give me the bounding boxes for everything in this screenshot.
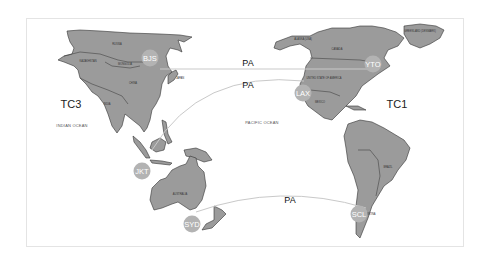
route-label-lax-jkt: PA — [242, 80, 253, 90]
sumatra-landmass — [133, 136, 150, 158]
country-label-mongolia: MONGOLIA — [118, 62, 132, 66]
region-label-tc1: TC1 — [387, 98, 408, 110]
country-label-china: CHINA — [129, 81, 137, 85]
city-code-syd: SYD — [184, 220, 200, 229]
country-label-usa: UNITED STATE OF AMERICA — [306, 76, 341, 80]
country-label-mexico: MEXICO — [315, 100, 325, 104]
city-marker-lax[interactable]: LAX — [295, 85, 312, 102]
country-label-india: INDIA — [104, 102, 111, 106]
new-zealand-landmass — [202, 206, 226, 230]
country-label-greenland: GREENLAND (DENMARK) — [404, 29, 436, 33]
ocean-label-pacific: PACIFIC OCEAN — [245, 120, 278, 125]
cuba-landmass — [346, 106, 366, 110]
world-map: PA PA PA TC3 TC1 INDIAN OCEAN PACIFIC OC… — [0, 0, 487, 263]
city-marker-scl[interactable]: SCL — [351, 206, 368, 223]
route-label-bjs-yto: PA — [242, 58, 253, 68]
city-code-scl: SCL — [352, 210, 367, 219]
greenland-landmass — [404, 24, 444, 48]
route-label-scl-syd: PA — [284, 195, 295, 205]
city-marker-syd[interactable]: SYD — [184, 216, 201, 233]
country-label-kazakhstan: KAZAKHSTAN — [79, 59, 96, 63]
route-lax-jkt — [152, 80, 304, 150]
city-code-bjs: BJS — [143, 54, 157, 63]
country-label-canada: CANADA — [332, 47, 343, 51]
country-label-australia: AUSTRALIA — [173, 192, 188, 196]
city-code-yto: YTO — [365, 60, 380, 69]
ocean-label-indian: INDIAN OCEAN — [56, 123, 87, 128]
java-landmass — [150, 160, 172, 165]
country-label-russia: RUSSIA — [112, 42, 122, 46]
country-label-brazil: BRAZIL — [383, 165, 393, 169]
region-label-tc3: TC3 — [61, 98, 82, 110]
country-label-japan: JAPAN — [176, 76, 184, 80]
city-marker-yto[interactable]: YTO — [365, 56, 382, 73]
city-marker-bjs[interactable]: BJS — [142, 50, 159, 67]
city-marker-jkt[interactable]: JKT — [134, 163, 151, 180]
city-code-jkt: JKT — [135, 167, 149, 176]
city-code-lax: LAX — [296, 89, 310, 98]
country-label-alaska: ALASKA (USA) — [294, 37, 312, 41]
australia-landmass — [150, 156, 206, 210]
